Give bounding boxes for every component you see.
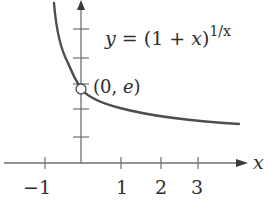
point-annotation-open: (0, xyxy=(93,76,123,97)
open-circle-marker xyxy=(76,84,86,94)
equation-y: y xyxy=(104,27,116,49)
equation-mid: = (1 + xyxy=(116,27,192,49)
x-axis-arrow-icon xyxy=(236,159,248,167)
x-tick-label-2: 2 xyxy=(155,176,167,198)
equation-exponent: 1/x xyxy=(209,23,231,39)
point-annotation-close: ) xyxy=(134,76,141,97)
x-tick-label-neg1: −1 xyxy=(23,176,51,198)
equation-x: x xyxy=(191,27,202,49)
x-axis-label: x xyxy=(253,151,264,173)
equation-close: ) xyxy=(202,27,209,49)
point-annotation-e: e xyxy=(123,76,134,97)
x-tick-label-3: 3 xyxy=(191,176,203,198)
x-tick-label-1: 1 xyxy=(116,176,128,198)
point-annotation: (0, e) xyxy=(93,76,141,97)
equation-label: y = (1 + x)1/x xyxy=(104,23,231,49)
function-curve xyxy=(54,3,239,124)
y-axis-arrow-icon xyxy=(77,0,85,10)
chart-canvas: −1 1 2 3 x y = (1 + x)1/x (0, e) xyxy=(0,0,277,216)
